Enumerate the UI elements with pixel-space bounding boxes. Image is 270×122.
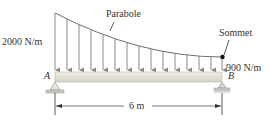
support-a-pin [46,82,64,93]
beam [55,72,222,82]
parabola-label: Parabole [106,9,141,19]
support-a-label: A [44,71,50,81]
distributed-load-arrows [55,13,222,70]
vertex-label: Sommet [219,28,252,38]
sommet-leader [224,40,229,55]
span-label: 6 m [129,101,144,111]
parabole-leader [110,22,114,31]
vertex-dot [220,55,224,59]
support-b-label: B [228,71,234,81]
support-b-roller [214,82,230,92]
left-load-label: 2000 N/m [2,37,42,47]
